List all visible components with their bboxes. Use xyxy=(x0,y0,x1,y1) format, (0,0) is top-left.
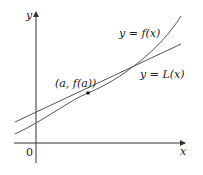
tangent-label: y = L(x) xyxy=(140,69,185,80)
curve-label: y = f(x) xyxy=(119,28,160,39)
y-axis-label: y xyxy=(26,10,32,21)
tangent-point xyxy=(86,91,90,95)
point-label: (a, f(a)) xyxy=(55,78,96,89)
x-axis-label: x xyxy=(180,146,186,157)
tangent-line-L xyxy=(15,44,181,122)
origin-label: 0 xyxy=(26,147,33,158)
